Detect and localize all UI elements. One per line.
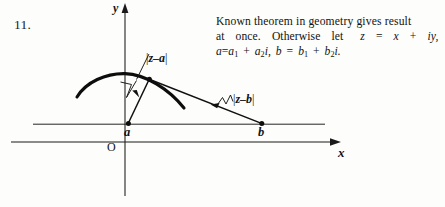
modulus-zb-text: z–b bbox=[235, 92, 252, 106]
solution-l2-x: x bbox=[394, 30, 399, 43]
brace-za bbox=[121, 81, 137, 98]
solution-l3-i-2: i. bbox=[334, 45, 340, 58]
solution-l2-at: at bbox=[216, 30, 225, 43]
solution-l2-z: z bbox=[360, 30, 365, 43]
solution-l2-equals: = bbox=[376, 30, 383, 43]
solution-l2-iy: iy, bbox=[427, 30, 438, 43]
solution-line-1: Known theorem in geometry gives result bbox=[216, 14, 440, 29]
y-axis-label: y bbox=[113, 1, 118, 16]
solution-l3-a1-subscript: 1 bbox=[234, 50, 238, 59]
point-z-marker bbox=[147, 77, 152, 82]
solution-l3-b: b bbox=[276, 45, 282, 58]
modulus-za-right-bar: | bbox=[165, 51, 167, 65]
solution-l3-equals-2: = bbox=[287, 45, 294, 58]
y-axis-arrowhead bbox=[122, 3, 129, 13]
solution-line-2: atonce.Otherwiseletz=x+iy, bbox=[216, 29, 440, 44]
leader-zigzag-zb bbox=[217, 95, 234, 106]
modulus-z-minus-a-label: |z–a| bbox=[146, 51, 167, 66]
solution-l3-b1-subscript: 1 bbox=[304, 50, 308, 59]
solution-line-1-text: Known theorem in geometry gives result bbox=[216, 15, 411, 28]
figure-page: 11. Known theorem in geometry gives resu… bbox=[0, 0, 445, 207]
modulus-za-text: z–a bbox=[148, 51, 165, 65]
solution-l2-once: once. bbox=[236, 30, 261, 43]
modulus-zb-right-bar: | bbox=[252, 92, 254, 106]
solution-text-block: Known theorem in geometry gives result a… bbox=[216, 14, 440, 63]
solution-l3-plus-2: + bbox=[313, 45, 320, 58]
point-b-label: b bbox=[258, 125, 264, 140]
solution-line-3: a=a1+a2i,b=b1+b2i. bbox=[216, 44, 440, 62]
point-a-label: a bbox=[124, 125, 130, 140]
problem-number: 11. bbox=[14, 17, 31, 33]
origin-label: O bbox=[107, 140, 116, 155]
solution-l3-plus-1: + bbox=[243, 45, 250, 58]
modulus-z-minus-b-label: |z–b| bbox=[233, 92, 254, 107]
solution-l3-i-1: i, bbox=[265, 45, 271, 58]
x-axis-label: x bbox=[338, 145, 345, 161]
arrowhead-za bbox=[132, 90, 139, 98]
solution-l2-let: let bbox=[331, 30, 343, 43]
solution-l2-plus: + bbox=[410, 30, 417, 43]
solution-l2-otherwise: Otherwise bbox=[272, 30, 321, 43]
